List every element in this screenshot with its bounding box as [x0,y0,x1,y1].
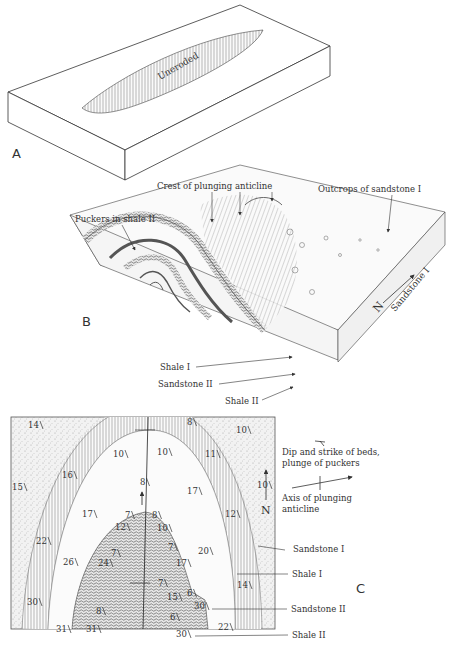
dip-value: 17 [82,509,93,519]
dip-value: 30 [176,629,187,639]
dip-value: 30 [27,597,38,607]
dip-value: 10 [113,449,124,459]
dip-value: 12 [225,509,236,519]
dip-value: 10 [157,523,168,533]
panel-b-letter: B [82,314,91,329]
dip-value: 31 [86,624,97,634]
dip-value: 7 [168,542,173,552]
dip-value: 7 [125,510,130,520]
sandstone-ii-label-b: Sandstone II [158,379,213,389]
unit-sandstone-ii: Sandstone II [291,604,346,614]
dip-value: 31 [56,624,67,634]
dip-value: 30 [194,601,205,611]
legend: Dip and strike of beds, plunge of pucker… [281,441,380,514]
dip-value: 6 [170,612,175,622]
dip-value: 12 [115,522,126,532]
geology-figure: Uneroded A N Sandstone I Crest of plungi… [0,0,449,652]
dip-value: 7 [111,548,116,558]
panel-b: N Sandstone I Crest of plunging anticlin… [70,165,445,406]
unit-sandstone-i: Sandstone I [293,544,344,554]
dip-value: 10 [157,447,168,457]
dip-value: 14 [237,580,248,590]
dip-value: 17 [187,486,198,496]
dip-value: 14 [28,420,39,430]
dip-value: 26 [63,557,74,567]
legend-axis: Axis of plunging [281,493,352,503]
dip-value: 7 [158,578,163,588]
dip-value: 8 [140,477,145,487]
dip-value: 22 [36,536,47,546]
legend-dip-strike-2: plunge of puckers [282,458,360,468]
dip-value: 10 [236,425,247,435]
strike-symbol [188,630,191,638]
panel-c-letter: C [356,581,365,596]
dip-value: 15 [12,482,23,492]
north-label-c: N [261,504,271,517]
legend-dip-strike: Dip and strike of beds, [282,447,380,457]
axis-symbol [292,477,352,488]
dip-value: 15 [167,592,178,602]
dip-value: 8 [96,606,101,616]
panel-c: 1481010101116815101717781212102272072624… [11,405,380,640]
puckers-label: Puckers in shale II [75,214,155,224]
outcrops-label: Outcrops of sandstone I [318,184,421,194]
dip-value: 11 [205,449,216,459]
dip-value: 6 [187,588,192,598]
dip-value: 22 [218,622,229,632]
dip-value: 17 [176,558,187,568]
unit-shale-ii: Shale II [292,630,326,640]
dip-value: 20 [198,546,209,556]
shale-i-label-b: Shale I [160,362,190,372]
panel-a-letter: A [12,146,21,161]
dip-value: 16 [62,470,73,480]
dip-value: 8 [152,510,157,520]
dip-value: 8 [187,417,192,427]
panel-a: Uneroded A [8,5,330,180]
dip-value: 24 [98,558,109,568]
unit-shale-i: Shale I [292,569,322,579]
crest-label: Crest of plunging anticline [157,181,272,191]
legend-axis-2: anticline [282,504,319,514]
shale-ii-label-b: Shale II [225,396,259,406]
